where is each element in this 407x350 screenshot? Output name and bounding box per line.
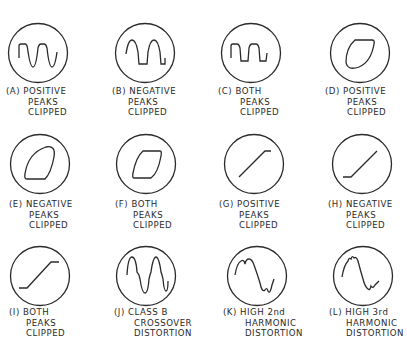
tag: (J) — [114, 307, 125, 317]
label-line: CLIPPED — [219, 220, 280, 231]
tag: (L) — [329, 307, 342, 317]
scope-i-both-peaks-clipped-icon — [9, 245, 71, 307]
label-c: (C) BOTH PEAKS CLIPPED — [218, 86, 279, 118]
scope-g-positive-peaks-clipped-icon — [223, 133, 285, 195]
label-f: (F) BOTH PEAKS CLIPPED — [115, 199, 172, 231]
label-line: PEAKS — [218, 97, 279, 108]
scope-l-third-harmonic-distortion-icon — [332, 245, 394, 307]
label-line: PEAKS — [115, 210, 172, 221]
tag: (F) — [115, 199, 128, 209]
label-line: HARMONIC — [329, 318, 404, 329]
label-line: DISTORTION — [329, 328, 404, 339]
label-g: (G) POSITIVE PEAKS CLIPPED — [219, 199, 280, 231]
label-line: DISTORTION — [223, 328, 303, 339]
label-j: (J) CLASS B CROSSOVER DISTORTION — [114, 307, 192, 339]
tag: (E) — [9, 199, 23, 209]
scope-j-crossover-distortion-icon — [115, 245, 177, 307]
scope-f-both-peaks-clipped-icon — [115, 133, 177, 195]
label-line: NEGATIVE — [26, 199, 73, 209]
label-line: CLIPPED — [115, 220, 172, 231]
tag: (C) — [218, 86, 232, 96]
label-line: PEAKS — [328, 210, 393, 221]
label-line: CLIPPED — [9, 328, 65, 339]
scope-a-positive-peaks-clipped-icon — [7, 22, 69, 84]
label-line: CROSSOVER — [114, 318, 192, 329]
scope-h-negative-peaks-clipped-icon — [331, 133, 393, 195]
scope-b-negative-peaks-clipped-icon — [114, 22, 176, 84]
label-line: HIGH 3rd — [345, 307, 388, 317]
tag: (D) — [325, 86, 340, 96]
label-d: (D) POSITIVE PEAKS CLIPPED — [325, 86, 386, 118]
tag: (I) — [9, 307, 20, 317]
label-line: CLIPPED — [9, 220, 73, 231]
label-line: BOTH — [131, 199, 157, 209]
label-line: CLIPPED — [328, 220, 393, 231]
label-line: BOTH — [23, 307, 49, 317]
label-line: BOTH — [235, 86, 261, 96]
label-line: CLASS B — [128, 307, 168, 317]
label-line: POSITIVE — [23, 86, 66, 96]
tag: (G) — [219, 199, 234, 209]
label-line: NEGATIVE — [346, 199, 393, 209]
label-line: CLIPPED — [325, 107, 386, 118]
scope-k-second-harmonic-distortion-icon — [226, 245, 288, 307]
label-line: PEAKS — [112, 97, 176, 108]
label-line: PEAKS — [9, 210, 73, 221]
label-line: DISTORTION — [114, 328, 192, 339]
tag: (A) — [6, 86, 20, 96]
label-k: (K) HIGH 2nd HARMONIC DISTORTION — [223, 307, 303, 339]
label-line: CLIPPED — [218, 107, 279, 118]
label-line: POSITIVE — [343, 86, 386, 96]
label-line: NEGATIVE — [129, 86, 176, 96]
label-line: PEAKS — [325, 97, 386, 108]
tag: (B) — [112, 86, 126, 96]
label-line: HARMONIC — [223, 318, 303, 329]
label-b: (B) NEGATIVE PEAKS CLIPPED — [112, 86, 176, 118]
label-line: PEAKS — [219, 210, 280, 221]
tag: (K) — [223, 307, 237, 317]
label-line: PEAKS — [9, 318, 65, 329]
label-a: (A) POSITIVE PEAKS CLIPPED — [6, 86, 67, 118]
scope-d-positive-peaks-clipped-icon — [329, 22, 391, 84]
label-line: CLIPPED — [112, 107, 176, 118]
label-l: (L) HIGH 3rd HARMONIC DISTORTION — [329, 307, 404, 339]
scope-c-both-peaks-clipped-icon — [220, 22, 282, 84]
label-line: HIGH 2nd — [240, 307, 285, 317]
label-h: (H) NEGATIVE PEAKS CLIPPED — [328, 199, 393, 231]
tag: (H) — [328, 199, 343, 209]
label-line: CLIPPED — [6, 107, 67, 118]
scope-e-negative-peaks-clipped-icon — [9, 133, 71, 195]
label-e: (E) NEGATIVE PEAKS CLIPPED — [9, 199, 73, 231]
label-line: POSITIVE — [237, 199, 280, 209]
label-i: (I) BOTH PEAKS CLIPPED — [9, 307, 65, 339]
label-line: PEAKS — [6, 97, 67, 108]
